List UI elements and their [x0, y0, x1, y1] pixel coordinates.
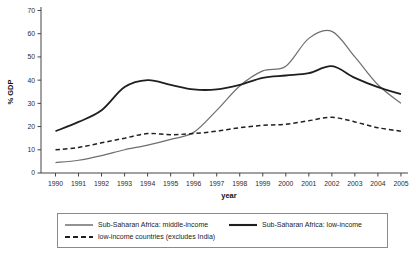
legend-row-1: Sub-Saharan Africa: middle-income Sub-Sa… — [58, 221, 387, 228]
y-tick-label: 0 — [31, 169, 35, 176]
x-tick-label: 1990 — [48, 180, 63, 187]
series-line-low-income-excl-india — [56, 117, 401, 150]
chart-figure: 0102030405060701990199119921993199419951… — [0, 0, 416, 254]
x-tick-label: 1997 — [209, 180, 224, 187]
x-tick-label: 1999 — [255, 180, 270, 187]
y-tick-label: 20 — [27, 123, 35, 130]
legend-label-low-income: Sub-Saharan Africa: low-income — [262, 221, 362, 228]
y-tick-label: 30 — [27, 100, 35, 107]
legend-line-low-income-icon — [229, 222, 257, 228]
line-chart-canvas: 0102030405060701990199119921993199419951… — [0, 0, 416, 212]
series-line-ssa-low-income — [56, 66, 401, 131]
x-tick-label: 1996 — [186, 180, 201, 187]
x-tick-label: 1994 — [140, 180, 155, 187]
y-tick-label: 60 — [27, 30, 35, 37]
legend-label-middle-income: Sub-Saharan Africa: middle-income — [98, 221, 208, 228]
x-tick-label: 1995 — [163, 180, 178, 187]
legend-item-middle-income: Sub-Saharan Africa: middle-income — [65, 221, 229, 228]
legend-row-2: low-income countries (excludes India) — [58, 233, 387, 240]
x-tick-label: 2005 — [393, 180, 408, 187]
x-tick-label: 1993 — [117, 180, 132, 187]
x-tick-label: 1992 — [94, 180, 109, 187]
legend-item-low-income: Sub-Saharan Africa: low-income — [229, 221, 362, 228]
y-tick-label: 50 — [27, 53, 35, 60]
x-tick-label: 1998 — [232, 180, 247, 187]
legend-line-middle-income-icon — [65, 222, 93, 228]
x-tick-label: 2003 — [347, 180, 362, 187]
x-tick-label: 1991 — [71, 180, 86, 187]
legend-item-excl-india: low-income countries (excludes India) — [65, 233, 229, 240]
legend-line-excl-india-icon — [65, 234, 93, 240]
y-tick-label: 70 — [27, 7, 35, 14]
x-tick-label: 2004 — [370, 180, 385, 187]
y-tick-label: 40 — [27, 77, 35, 84]
x-axis-title: year — [221, 191, 237, 200]
x-tick-label: 2002 — [324, 180, 339, 187]
legend-box: Sub-Saharan Africa: middle-income Sub-Sa… — [57, 213, 388, 248]
series-line-ssa-middle-income — [56, 30, 401, 162]
x-tick-label: 2001 — [301, 180, 316, 187]
x-tick-label: 2000 — [278, 180, 293, 187]
legend-label-excl-india: low-income countries (excludes India) — [98, 233, 215, 240]
y-tick-label: 10 — [27, 146, 35, 153]
y-axis-title: % GDP — [6, 79, 15, 104]
